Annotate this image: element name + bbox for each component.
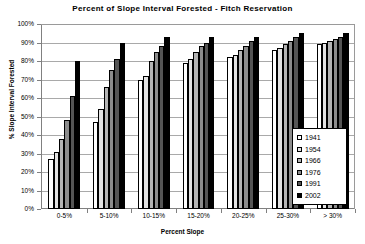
y-axis-tick <box>37 209 41 210</box>
legend-swatch-icon <box>297 170 302 175</box>
x-axis-tick-label: 5-10% <box>87 212 132 224</box>
x-axis-tick-label: 25-30% <box>266 212 311 224</box>
y-axis-tick <box>37 61 41 62</box>
x-axis-tick <box>221 209 222 213</box>
y-axis-tick <box>37 172 41 173</box>
bar-group <box>42 24 87 209</box>
y-axis-tick-label: 20% <box>21 169 34 176</box>
x-axis-tick-label: > 30% <box>310 212 355 224</box>
legend-swatch-icon <box>297 147 302 152</box>
y-axis-tick <box>37 191 41 192</box>
legend-item-1976: 1976 <box>297 167 343 179</box>
legend-item-2002: 2002 <box>297 190 343 202</box>
legend-swatch-icon <box>297 193 302 198</box>
y-axis-tick-label: 70% <box>21 76 34 83</box>
bar-group <box>131 24 176 209</box>
y-axis-tick <box>37 154 41 155</box>
y-axis-tick-label: 60% <box>21 95 34 102</box>
y-axis-tick <box>37 80 41 81</box>
bar-2002-5-10% <box>120 43 125 210</box>
x-axis-tick-label: 20-25% <box>221 212 266 224</box>
x-axis-labels: 0-5%5-10%10-15%15-20%20-25%25-30%> 30% <box>42 212 355 224</box>
x-axis-tick <box>310 209 311 213</box>
x-axis-title: Percent Slope <box>0 228 365 235</box>
y-axis-tick-label: 90% <box>21 39 34 46</box>
y-axis-tick <box>37 43 41 44</box>
bar-group <box>221 24 266 209</box>
x-axis-tick-label: 0-5% <box>42 212 87 224</box>
bar-group <box>87 24 132 209</box>
legend-label: 1966 <box>305 157 321 164</box>
legend-label: 1991 <box>305 180 321 187</box>
x-axis-tick <box>131 209 132 213</box>
legend-item-1954: 1954 <box>297 144 343 156</box>
y-axis-tick-label: 0% <box>25 206 34 213</box>
x-axis-tick <box>87 209 88 213</box>
y-axis-tick <box>37 98 41 99</box>
legend-item-1991: 1991 <box>297 178 343 190</box>
x-axis-tick-label: 10-15% <box>131 212 176 224</box>
chart-legend: 194119541966197619912002 <box>292 128 347 205</box>
y-axis-tick <box>37 117 41 118</box>
legend-swatch-icon <box>297 181 302 186</box>
bar-group <box>176 24 221 209</box>
chart-title: Percent of Slope Interval Forested - Fit… <box>0 4 365 13</box>
y-axis-tick-label: 10% <box>21 187 34 194</box>
legend-label: 1954 <box>305 146 321 153</box>
legend-item-1941: 1941 <box>297 132 343 144</box>
legend-swatch-icon <box>297 135 302 140</box>
y-axis-labels: 0%10%20%30%40%50%60%70%80%90%100% <box>0 24 38 209</box>
y-axis-tick-label: 40% <box>21 132 34 139</box>
bar-2002-15-20% <box>209 37 214 209</box>
y-axis-tick-label: 50% <box>21 113 34 120</box>
x-axis-tick <box>266 209 267 213</box>
chart-container: Percent of Slope Interval Forested - Fit… <box>0 0 365 244</box>
x-axis-tick-label: 15-20% <box>176 212 221 224</box>
y-axis-tick <box>37 24 41 25</box>
y-axis-tick-label: 30% <box>21 150 34 157</box>
legend-swatch-icon <box>297 158 302 163</box>
legend-label: 1941 <box>305 134 321 141</box>
bar-2002-10-15% <box>164 37 169 209</box>
x-axis-tick <box>176 209 177 213</box>
x-axis-tick <box>355 209 356 213</box>
bar-2002-20-25% <box>254 37 259 209</box>
legend-label: 2002 <box>305 192 321 199</box>
y-axis-tick-label: 100% <box>17 21 34 28</box>
legend-item-1966: 1966 <box>297 155 343 167</box>
y-axis-tick <box>37 135 41 136</box>
y-axis-tick-label: 80% <box>21 58 34 65</box>
bar-2002-0-5% <box>75 61 80 209</box>
legend-label: 1976 <box>305 169 321 176</box>
